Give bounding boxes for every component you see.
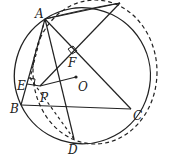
label-o: O [78,80,88,94]
label-c: C [133,109,142,123]
label-e: E [16,79,26,93]
label-a: A [34,7,44,21]
geometry-figure: A F O E P B C D [0,0,180,166]
circle-o [21,8,150,144]
label-p: P [39,91,49,105]
label-f: F [67,56,77,70]
label-b: B [9,102,19,116]
segments [21,3,131,139]
label-d: D [67,143,78,157]
point-o [74,75,77,78]
